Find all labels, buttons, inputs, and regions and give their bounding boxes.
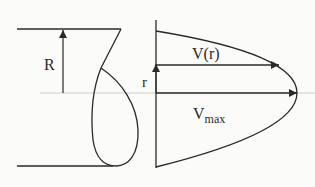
label-V-r: V(r) xyxy=(192,46,220,62)
label-V-max-base: V xyxy=(193,105,205,122)
label-R: R xyxy=(44,57,55,73)
label-V-max-subscript: max xyxy=(205,112,226,126)
diagram-graphics xyxy=(0,0,315,187)
label-V-max: Vmax xyxy=(193,106,225,122)
velocity-profile-curve xyxy=(156,31,297,167)
velocity-profile-diagram: R r V(r) Vmax xyxy=(0,0,315,187)
label-r: r xyxy=(142,75,147,90)
droplet-shape xyxy=(92,29,138,166)
